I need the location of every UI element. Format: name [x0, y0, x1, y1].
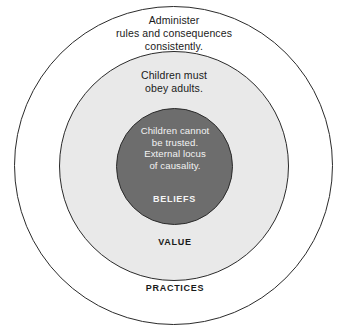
value-label: Value: [110, 234, 240, 248]
practices-description: Administer rules and consequences consis…: [60, 14, 288, 52]
value-description: Children must obey adults.: [92, 69, 256, 95]
concentric-circles-diagram: Administer rules and consequences consis…: [0, 0, 349, 332]
practices-label: Practices: [100, 280, 250, 294]
beliefs-description: Children cannot be trusted. External loc…: [118, 125, 232, 172]
beliefs-label: Beliefs: [116, 191, 233, 205]
